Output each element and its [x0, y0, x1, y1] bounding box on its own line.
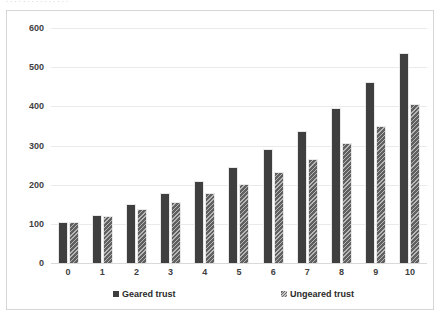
bar-geared-9: [365, 82, 375, 263]
bar-ungeared-0: [69, 222, 79, 263]
x-axis-tick-label: 1: [100, 267, 105, 277]
x-axis-tick-label: 3: [168, 267, 173, 277]
y-axis-tick-label: 100: [29, 219, 44, 228]
bar-group: [51, 28, 85, 263]
bar-ungeared-9: [376, 126, 386, 263]
y-axis-labels: 0100200300400500600: [7, 28, 47, 263]
bar-ungeared-1: [103, 216, 113, 263]
chart-screenshot: . . . . . . . . . . . . . . . 0100200300…: [0, 0, 442, 317]
x-axis-tick-label: 2: [134, 267, 139, 277]
bar-group: [359, 28, 393, 263]
bar-geared-7: [297, 131, 307, 263]
bar-ungeared-6: [274, 172, 284, 263]
bar-geared-4: [194, 181, 204, 263]
chart-legend: Geared trust Ungeared trust: [51, 289, 427, 303]
bar-group: [393, 28, 427, 263]
x-axis-tick-label: 9: [373, 267, 378, 277]
bar-ungeared-3: [171, 202, 181, 263]
bar-ungeared-8: [342, 143, 352, 263]
x-axis-tick-label: 6: [271, 267, 276, 277]
y-axis-tick-label: 300: [29, 141, 44, 150]
x-axis-tick-label: 0: [66, 267, 71, 277]
bar-group: [324, 28, 358, 263]
bar-group: [119, 28, 153, 263]
bar-geared-6: [263, 149, 273, 263]
bar-ungeared-2: [137, 209, 147, 263]
legend-item-ungeared-trust: Ungeared trust: [281, 289, 354, 299]
bar-group: [188, 28, 222, 263]
bars-layer: [51, 28, 427, 263]
x-axis-tick-label: 5: [236, 267, 241, 277]
legend-label-geared: Geared trust: [122, 289, 176, 299]
bar-ungeared-5: [239, 184, 249, 263]
x-axis-tick-label: 10: [405, 267, 415, 277]
bar-group: [222, 28, 256, 263]
bar-geared-8: [331, 108, 341, 263]
clipped-top-text: . . . . . . . . . . . . . . .: [6, 0, 68, 3]
axis-baseline: [51, 263, 427, 264]
y-axis-tick-label: 0: [39, 259, 44, 268]
bar-geared-0: [58, 222, 68, 263]
x-axis-labels: 012345678910: [51, 267, 427, 283]
bar-ungeared-10: [410, 104, 420, 263]
y-axis-tick-label: 500: [29, 63, 44, 72]
bar-geared-2: [126, 204, 136, 263]
bar-ungeared-4: [205, 193, 215, 263]
y-axis-tick-label: 200: [29, 180, 44, 189]
bar-group: [85, 28, 119, 263]
x-axis-tick-label: 4: [202, 267, 207, 277]
bar-geared-5: [228, 167, 238, 263]
x-axis-tick-label: 8: [339, 267, 344, 277]
y-axis-tick-label: 600: [29, 24, 44, 33]
y-axis-tick-label: 400: [29, 102, 44, 111]
plot-area: [51, 28, 427, 263]
x-axis-tick-label: 7: [305, 267, 310, 277]
legend-swatch-icon-geared: [113, 291, 119, 297]
legend-swatch-icon-ungeared: [281, 291, 287, 297]
chart-frame: 0100200300400500600 012345678910 Geared …: [6, 10, 434, 310]
bar-ungeared-7: [308, 159, 318, 263]
bar-geared-3: [160, 193, 170, 263]
bar-group: [290, 28, 324, 263]
bar-group: [154, 28, 188, 263]
clipped-top-text-strip: . . . . . . . . . . . . . . .: [0, 0, 442, 9]
bar-group: [256, 28, 290, 263]
bar-geared-1: [92, 215, 102, 263]
bar-geared-10: [399, 53, 409, 263]
legend-item-geared-trust: Geared trust: [113, 289, 176, 299]
legend-label-ungeared: Ungeared trust: [290, 289, 354, 299]
